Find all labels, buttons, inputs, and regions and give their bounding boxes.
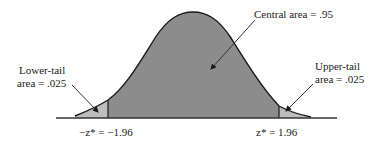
upper-tail-arrow bbox=[286, 84, 313, 111]
upper-critical-z-label: z* = 1.96 bbox=[256, 126, 298, 138]
normal-curve-diagram: Central area = .95 Lower-tail area = .02… bbox=[0, 0, 381, 142]
lower-tail-label-line2: area = .025 bbox=[17, 77, 67, 89]
upper-tail-label-line1: Upper-tail bbox=[315, 60, 360, 72]
central-area-region bbox=[108, 12, 279, 118]
upper-tail-label-line2: area = .025 bbox=[315, 73, 365, 85]
lower-tail-label-line1: Lower-tail bbox=[19, 64, 65, 76]
lower-critical-z-label: −z* = −1.96 bbox=[79, 126, 133, 138]
lower-tail-arrow bbox=[72, 85, 98, 112]
central-area-label: Central area = .95 bbox=[254, 8, 333, 20]
